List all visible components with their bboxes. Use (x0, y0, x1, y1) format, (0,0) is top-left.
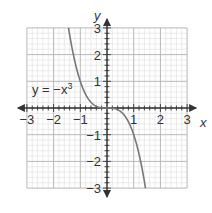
y-tick-label: −1 (86, 128, 101, 143)
x-tick-label: −3 (19, 112, 34, 127)
x-tick-label: 1 (130, 112, 137, 127)
x-tick-label: −1 (73, 112, 88, 127)
x-tick-label: 2 (157, 112, 164, 127)
x-tick-label: 3 (183, 112, 190, 127)
equation-superscript: 3 (67, 81, 72, 91)
y-tick-label: 3 (94, 21, 101, 36)
equation-text: y = −x (32, 82, 68, 97)
chart: −3−2−1123321−1−2−3 x y y = −x3 (0, 0, 212, 213)
y-axis-arrow-up-icon (103, 18, 111, 26)
y-tick-label: 1 (94, 74, 101, 89)
x-axis-arrow-left-icon (17, 104, 25, 112)
x-tick-label: −2 (46, 112, 61, 127)
x-axis-arrow-right-icon (189, 104, 197, 112)
x-axis-label: x (199, 115, 207, 130)
y-tick-label: 2 (94, 48, 101, 63)
y-axis-arrow-down-icon (103, 190, 111, 198)
y-tick-label: −3 (86, 181, 101, 196)
equation-label: y = −x3 (32, 81, 72, 97)
y-tick-label: −2 (86, 154, 101, 169)
